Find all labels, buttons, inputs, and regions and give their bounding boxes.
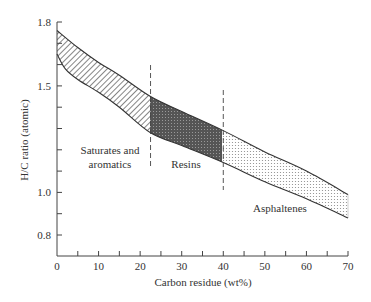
y-tick-label: 1.5: [37, 80, 51, 92]
label-asphaltenes: Asphaltenes: [253, 202, 307, 214]
x-axis: 010203040506070: [54, 251, 354, 272]
label-resins: Resins: [171, 158, 200, 170]
y-tick-label: 1.8: [37, 16, 51, 28]
x-tick-label: 40: [218, 260, 230, 272]
y-axis-label: H/C ratio (atomic): [18, 99, 31, 181]
label-saturates-line2: aromatics: [89, 158, 132, 170]
x-tick-label: 60: [301, 260, 313, 272]
y-tick-label: 0.8: [37, 229, 51, 241]
x-tick-label: 30: [176, 260, 188, 272]
label-saturates-line1: Saturates and: [81, 144, 140, 156]
x-axis-label: Carbon residue (wt%): [154, 276, 251, 289]
x-tick-label: 20: [135, 260, 147, 272]
x-tick-label: 50: [259, 260, 271, 272]
x-tick-label: 10: [93, 260, 105, 272]
chart: 0.81.01.51.8 010203040506070 H/C ratio (…: [0, 0, 371, 302]
y-tick-label: 1.0: [37, 186, 51, 198]
x-tick-label: 0: [54, 260, 60, 272]
x-tick-label: 70: [343, 260, 355, 272]
band-regions: [57, 31, 348, 218]
